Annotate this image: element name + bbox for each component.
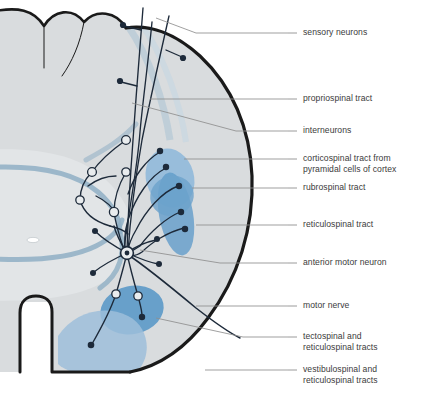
leader-sensory-neurons: [156, 18, 288, 33]
figure-canvas: sensory neurons propriospinal tract inte…: [0, 0, 424, 406]
label-corticospinal-tract: corticospinal tract from pyramidal cells…: [303, 153, 396, 174]
label-anterior-motor-neuron: anterior motor neuron: [303, 257, 387, 268]
label-reticulospinal-tract: reticulospinal tract: [303, 219, 373, 230]
label-ticks: [288, 33, 297, 370]
label-sensory-neurons: sensory neurons: [303, 27, 367, 38]
label-motor-nerve: motor nerve: [303, 300, 349, 311]
label-tectospinal-tracts: tectospinal and reticulospinal tracts: [303, 331, 378, 352]
label-interneurons: interneurons: [303, 125, 351, 136]
label-propriospinal-tract: propriospinal tract: [303, 93, 372, 104]
label-vestibulospinal-tracts: vestibulospinal and reticulospinal tract…: [303, 364, 378, 385]
central-canal: [27, 237, 39, 242]
label-rubrospinal-tract: rubrospinal tract: [303, 182, 365, 193]
